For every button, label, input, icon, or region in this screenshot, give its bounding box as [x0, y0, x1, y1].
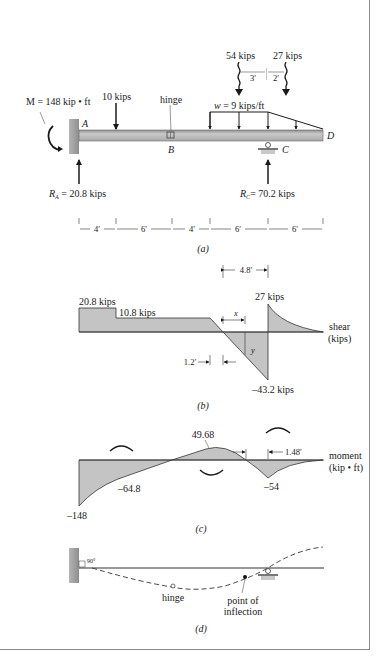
fixed-support-wall	[69, 119, 79, 154]
resultant-27-arrow-icon	[285, 62, 287, 91]
inflection-label-2: inflection	[224, 606, 262, 617]
caption-a: (a)	[197, 243, 209, 255]
hinge-label-d: hinge	[162, 592, 185, 603]
fixed-support-wall-d	[69, 548, 79, 583]
beam-analysis-figure: hinge B M = 148 kip • ft A 10 kips w = 9…	[0, 0, 384, 669]
moment-axis-label-2: (kip • ft)	[329, 462, 363, 474]
shear-10-8: 10.8 kips	[119, 307, 156, 318]
span-2: 6′	[141, 224, 147, 234]
shear-20-8: 20.8 kips	[79, 296, 116, 307]
moment-axis-label-1: moment	[329, 450, 362, 461]
span-3: 4′	[189, 224, 195, 234]
shear-neg-43-2: –43.2 kips	[251, 384, 294, 395]
shear-negative-region	[223, 332, 268, 380]
panel-c-moment-diagram: 49.68 1.48′ moment (kip • ft) –64.8 –54 …	[66, 428, 363, 535]
moment-negative-region-right	[246, 460, 323, 478]
reaction-a-label: RA = 20.8 kips	[48, 188, 106, 200]
shear-cantilever-region	[268, 304, 323, 332]
moment-neg-148: –148	[66, 510, 87, 521]
caption-d: (d)	[195, 623, 207, 635]
moment-neg-54: –54	[263, 481, 279, 492]
load-54kips-label: 54 kips	[226, 50, 255, 61]
span-1: 4′	[94, 224, 100, 234]
angle-label: 90°	[87, 558, 96, 564]
resultant-54-arrow-icon	[238, 62, 240, 91]
point-a-label: A	[81, 118, 89, 129]
moment-neg-64-8: –64.8	[117, 483, 141, 494]
distributed-load-label: w = 9 kips/ft	[214, 100, 265, 111]
moment-positive-region	[172, 447, 246, 460]
dim-1-48ft: 1.48′	[285, 447, 302, 457]
shear-axis-label-2: (kips)	[328, 333, 351, 345]
shear-axis-label-1: shear	[329, 321, 351, 332]
inflection-point-icon	[243, 575, 247, 579]
load-27kips-label: 27 kips	[273, 50, 302, 61]
var-x: x	[233, 308, 238, 318]
roller-support-d-icon	[266, 569, 271, 574]
moment-49-68: 49.68	[192, 429, 215, 440]
inflection-label-1: point of	[227, 595, 259, 606]
panel-b-shear-diagram: 4.8′ 20.8 kips 10.8 kips 27 kips shear (…	[79, 265, 351, 412]
panel-d-deflected-shape: 90° hinge point of inflection (d)	[69, 547, 324, 635]
dim-2ft-label: 2′	[273, 73, 279, 83]
moment-label: M = 148 kip • ft	[26, 96, 91, 107]
hinge-point-icon	[171, 584, 175, 588]
load-10kips-label: 10 kips	[102, 91, 131, 102]
dim-4-8ft: 4.8′	[240, 265, 253, 275]
span-4: 6′	[235, 224, 241, 234]
beam	[79, 130, 323, 141]
distributed-load-outline	[210, 112, 323, 129]
point-d-label: D	[326, 130, 335, 141]
point-c-label: C	[282, 144, 289, 155]
caption-c: (c)	[195, 523, 207, 535]
curvature-concave-up-icon	[200, 470, 223, 475]
hinge-label: hinge	[160, 94, 183, 105]
roller-support-icon	[266, 143, 271, 148]
panel-a-loading-diagram: hinge B M = 148 kip • ft A 10 kips w = 9…	[26, 50, 335, 255]
span-5: 6′	[292, 224, 298, 234]
curvature-concave-down-icon-2	[266, 428, 290, 433]
shear-27: 27 kips	[255, 291, 284, 302]
right-angle-icon	[79, 561, 85, 567]
caption-b: (b)	[197, 400, 209, 412]
dim-3ft-label: 3′	[250, 73, 256, 83]
reaction-c-label: RC= 70.2 kips	[239, 188, 295, 200]
point-b-label: B	[168, 144, 174, 155]
var-y: y	[250, 345, 255, 355]
curvature-concave-down-icon	[110, 446, 133, 451]
dim-1-2ft: 1.2′	[184, 357, 197, 367]
span-dimensions	[79, 218, 323, 229]
